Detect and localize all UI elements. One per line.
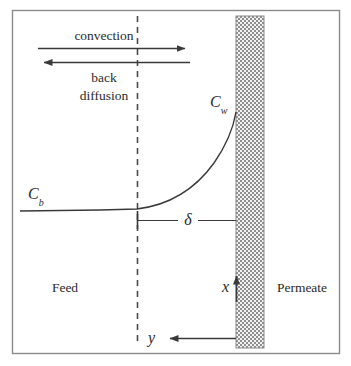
diffusion-label: diffusion xyxy=(80,89,129,103)
wall-concentration-subscript: w xyxy=(221,105,228,116)
wall-concentration-symbol: C xyxy=(210,93,221,110)
y-axis-label: y xyxy=(148,330,155,346)
feed-side-label: Feed xyxy=(52,281,78,295)
x-axis-label: x xyxy=(222,279,229,295)
membrane-band xyxy=(236,16,264,348)
back-label: back xyxy=(91,71,116,85)
diagram-canvas xyxy=(0,0,351,366)
convection-label: convection xyxy=(74,29,133,43)
boundary-layer-thickness-label: δ xyxy=(184,212,191,228)
wall-concentration-label: Cw xyxy=(210,94,227,113)
concentration-polarization-figure: convection back diffusion Cw Cb δ Feed P… xyxy=(0,0,351,366)
bulk-concentration-label: Cb xyxy=(28,186,44,205)
bulk-concentration-subscript: b xyxy=(39,197,44,208)
permeate-side-label: Permeate xyxy=(277,281,327,295)
bulk-concentration-symbol: C xyxy=(28,185,39,202)
